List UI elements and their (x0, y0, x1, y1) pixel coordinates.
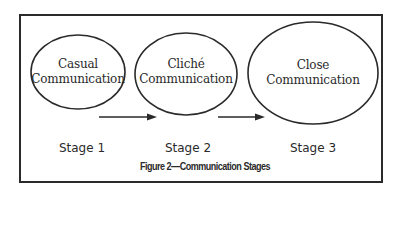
arrow-stage1-to-stage2 (99, 114, 157, 121)
arrow-stage2-to-stage3 (218, 114, 265, 121)
stage-1-node-line1: Casual (30, 57, 126, 72)
stage-2-node-line1: Cliché (136, 57, 236, 72)
figure-caption: Figure 2—Communication Stages (135, 160, 274, 172)
stage-1-node-line2: Communication (30, 72, 126, 87)
stage-2-node-line2: Communication (136, 72, 236, 87)
stage-2-node-text: Cliché Communication (136, 57, 236, 87)
stage-3-node-line2: Communication (263, 73, 363, 88)
stage-3-label: Stage 3 (273, 141, 353, 155)
stage-3-node-line1: Close (263, 58, 363, 73)
stage-2-label: Stage 2 (148, 141, 228, 155)
stage-1-node-text: Casual Communication (30, 57, 126, 87)
stage-3-node-text: Close Communication (263, 58, 363, 88)
stage-1-label: Stage 1 (42, 141, 122, 155)
